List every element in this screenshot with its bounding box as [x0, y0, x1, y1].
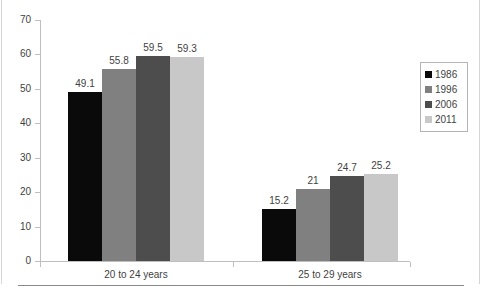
y-tick-label: 30 [20, 151, 31, 164]
legend-item-label: 2011 [435, 113, 457, 126]
legend: 1986199620062011 [420, 62, 468, 132]
y-tick-label: 70 [20, 13, 31, 26]
bar [136, 56, 170, 261]
legend-swatch-icon [425, 101, 432, 108]
legend-item-label: 1996 [435, 83, 457, 96]
bar-value-label: 24.7 [330, 162, 364, 174]
bar-value-label: 21 [296, 175, 330, 187]
legend-item[interactable]: 2006 [421, 97, 467, 112]
y-tick-label: 60 [20, 47, 31, 60]
x-axis-line [40, 261, 410, 262]
legend-item-label: 1986 [435, 68, 457, 81]
x-tick-mark [233, 262, 234, 267]
bar [262, 209, 296, 261]
bar [296, 189, 330, 261]
frame-left-border [1, 0, 2, 284]
y-tick-label: 40 [20, 116, 31, 129]
bar-chart: 010203040506070 49.155.859.559.315.22124… [0, 0, 482, 301]
category-label: 20 to 24 years [76, 268, 196, 281]
legend-swatch-icon [425, 116, 432, 123]
x-tick-mark [40, 262, 41, 267]
x-tick-mark [410, 262, 411, 267]
bar-value-label: 15.2 [262, 195, 296, 207]
bar-value-label: 49.1 [68, 78, 102, 90]
y-tick-label: 50 [20, 82, 31, 95]
bar [68, 92, 102, 261]
frame-right-border [479, 0, 480, 284]
legend-item[interactable]: 1996 [421, 82, 467, 97]
legend-item[interactable]: 1986 [421, 67, 467, 82]
bar-value-label: 59.5 [136, 42, 170, 54]
bar-value-label: 25.2 [364, 160, 398, 172]
y-tick-label: 20 [20, 185, 31, 198]
bar [102, 69, 136, 261]
footer-divider [18, 285, 464, 286]
legend-item[interactable]: 2011 [421, 112, 467, 127]
legend-swatch-icon [425, 86, 432, 93]
bar [330, 176, 364, 261]
bar [364, 174, 398, 261]
bar-value-label: 59.3 [170, 43, 204, 55]
bars-layer [40, 20, 410, 261]
category-label: 25 to 29 years [270, 268, 390, 281]
legend-swatch-icon [425, 71, 432, 78]
bar-value-label: 55.8 [102, 55, 136, 67]
legend-item-label: 2006 [435, 98, 457, 111]
y-tick-label: 10 [20, 220, 31, 233]
bar [170, 57, 204, 261]
y-tick-label: 0 [25, 254, 31, 267]
